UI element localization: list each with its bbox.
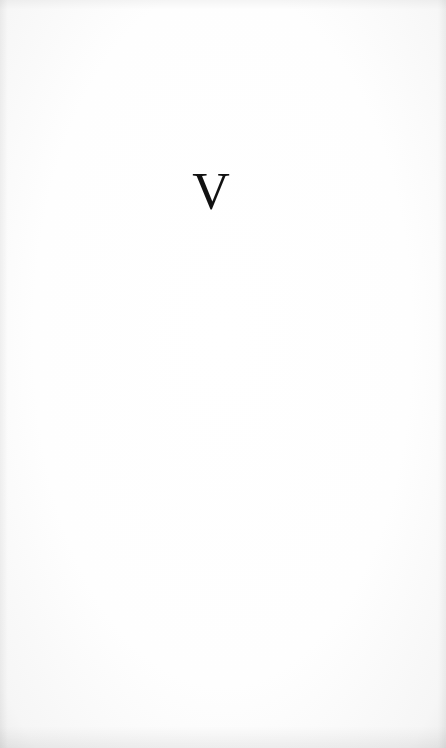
scan-edge-bottom	[0, 726, 446, 748]
book-page: V	[0, 0, 446, 748]
section-numeral-heading: V	[0, 162, 422, 222]
scan-edge-top	[0, 0, 446, 10]
scan-edge-right	[438, 0, 446, 748]
scan-edge-left	[0, 0, 8, 748]
